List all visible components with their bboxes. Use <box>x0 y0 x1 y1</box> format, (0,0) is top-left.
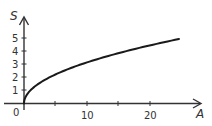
x-tick-label-20: 20 <box>144 110 157 121</box>
origin-label: 0 <box>13 107 19 118</box>
x-tick-label-10: 10 <box>81 110 94 121</box>
y-tick-label-2: 2 <box>12 72 18 83</box>
y-tick-label-3: 3 <box>12 59 18 70</box>
y-tick-label-1: 1 <box>12 85 18 96</box>
y-tick-label-5: 5 <box>12 33 18 44</box>
y-tick-label-4: 4 <box>12 46 18 57</box>
chart: 0 10 20 1 2 3 4 5 A S <box>0 0 212 126</box>
x-axis-label: A <box>195 107 204 121</box>
curve-sqrt <box>24 39 179 103</box>
y-axis-label: S <box>10 9 18 23</box>
